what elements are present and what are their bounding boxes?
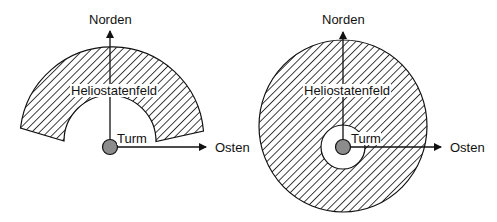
right-tower-label: Turm — [351, 132, 381, 145]
right-north-label: Norden — [322, 13, 365, 26]
left-field-label: Heliostatenfeld — [70, 84, 158, 97]
right-diagram — [259, 32, 441, 212]
left-north-label: Norden — [89, 13, 132, 26]
diagram-canvas — [0, 0, 497, 222]
tower-icon — [103, 140, 118, 155]
right-field-label: Heliostatenfeld — [303, 84, 391, 97]
tower-icon — [336, 140, 351, 155]
left-tower-label: Turm — [117, 132, 147, 145]
left-east-label: Osten — [215, 141, 250, 154]
right-east-label: Osten — [450, 141, 485, 154]
